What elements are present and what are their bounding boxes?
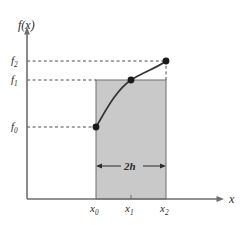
x-tick-label-x2: x2 bbox=[160, 203, 169, 217]
y-tick-label-f2: f2 bbox=[11, 55, 18, 69]
y-tick-label-f1: f1 bbox=[11, 74, 18, 88]
x-tick-label-x1: x1 bbox=[125, 203, 134, 217]
x-tick-x0-sub: 0 bbox=[95, 209, 99, 217]
x-axis-label: x bbox=[229, 193, 234, 205]
x-axis-arrowhead bbox=[217, 196, 225, 202]
y-tick-f1-sub: 1 bbox=[14, 80, 18, 88]
y-axis-label: f(x) bbox=[18, 19, 35, 31]
x-tick-label-x0: x0 bbox=[90, 203, 99, 217]
figure-container: f(x) x f2 f1 f0 x0 x1 x2 2h bbox=[0, 0, 250, 225]
x-tick-x2-sub: 2 bbox=[165, 209, 169, 217]
x-tick-x1-sub: 1 bbox=[130, 209, 134, 217]
y-tick-label-f0: f0 bbox=[11, 121, 18, 135]
width-annotation-2h: 2h bbox=[124, 161, 136, 172]
data-point-x1-f1 bbox=[128, 77, 135, 84]
width-annotation-unit: h bbox=[130, 160, 136, 172]
shaded-region-rect bbox=[96, 80, 166, 199]
y-tick-f2-sub: 2 bbox=[14, 61, 18, 69]
plot-canvas bbox=[0, 0, 250, 225]
data-point-x0-f0 bbox=[93, 124, 100, 131]
y-tick-f0-sub: 0 bbox=[14, 127, 18, 135]
data-point-x2-f2 bbox=[163, 58, 170, 65]
